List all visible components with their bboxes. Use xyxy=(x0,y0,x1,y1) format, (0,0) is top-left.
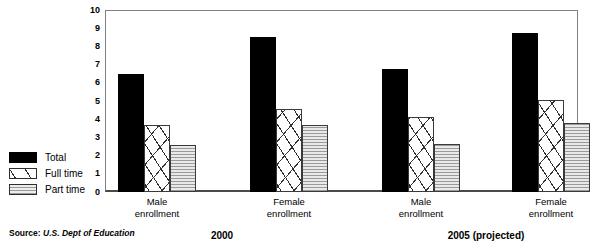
x-axis-period-label: 2005 (projected) xyxy=(416,230,556,241)
y-axis-tick: 3 xyxy=(78,133,100,142)
x-axis-group-label: Femaleenrollment xyxy=(239,196,339,220)
legend-item: Full time xyxy=(9,166,101,181)
x-axis-group-label: Maleenrollment xyxy=(371,196,471,220)
y-axis-tick: 5 xyxy=(78,97,100,106)
legend-item-label: Full time xyxy=(45,168,83,179)
group-label-line2: enrollment xyxy=(371,208,471,220)
bar-total xyxy=(512,33,538,192)
bar-total xyxy=(382,69,408,192)
y-axis-tick: 8 xyxy=(78,42,100,51)
group-label-line1: Female xyxy=(501,196,594,208)
legend-swatch-total xyxy=(9,152,37,163)
legend-item-label: Total xyxy=(45,152,66,163)
chart-plot-area xyxy=(105,10,578,192)
source-note: Source: U.S. Dept of Education xyxy=(9,228,135,238)
chart-legend: TotalFull timePart time xyxy=(9,150,101,198)
source-name: U.S. Dept of Education xyxy=(43,228,135,238)
bar-part-time xyxy=(564,123,590,192)
x-axis-group-label: Femaleenrollment xyxy=(501,196,594,220)
legend-item-label: Part time xyxy=(45,184,85,195)
legend-item: Part time xyxy=(9,182,101,197)
source-prefix: Source: xyxy=(9,228,41,238)
y-axis-tick: 4 xyxy=(78,115,100,124)
group-label-line2: enrollment xyxy=(501,208,594,220)
y-axis-tick: 6 xyxy=(78,78,100,87)
group-label-line1: Male xyxy=(371,196,471,208)
group-label-line2: enrollment xyxy=(107,208,207,220)
bar-total xyxy=(250,37,276,192)
bar-part-time xyxy=(170,145,196,192)
y-axis-tick: 10 xyxy=(78,6,100,15)
group-label-line1: Female xyxy=(239,196,339,208)
bar-full-time xyxy=(408,117,434,192)
bar-part-time xyxy=(302,125,328,192)
group-label-line2: enrollment xyxy=(239,208,339,220)
y-axis-tick: 9 xyxy=(78,24,100,33)
y-axis-tick: 7 xyxy=(78,60,100,69)
bar-full-time xyxy=(276,109,302,192)
legend-item: Total xyxy=(9,150,101,165)
legend-swatch-part-time xyxy=(9,184,37,195)
bar-full-time xyxy=(538,100,564,192)
bar-full-time xyxy=(144,125,170,192)
x-axis-period-label: 2000 xyxy=(152,230,292,241)
bar-total xyxy=(118,74,144,192)
legend-swatch-full-time xyxy=(9,168,37,179)
bar-part-time xyxy=(434,144,460,192)
group-label-line1: Male xyxy=(107,196,207,208)
x-axis-group-label: Maleenrollment xyxy=(107,196,207,220)
